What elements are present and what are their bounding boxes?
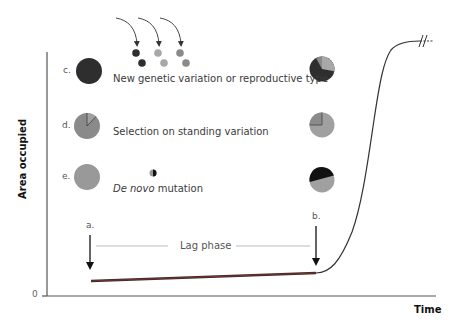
- pie-e-initial: [74, 164, 100, 190]
- pie-d-initial: [74, 113, 100, 139]
- mutant-half-dot: [150, 170, 157, 177]
- marker-a-label: a.: [86, 221, 94, 230]
- mechanism-e-italic: De novo: [113, 183, 155, 194]
- x-axis-label: Time: [414, 305, 441, 315]
- pie-d-final: [310, 113, 335, 138]
- genotype-dots: [132, 49, 190, 67]
- axis-break-icon: [419, 35, 434, 47]
- lag-phase-diagram: Area occupied 0 Time c. New genetic vari…: [0, 0, 452, 329]
- mechanism-e-text: De novo mutation: [113, 184, 203, 194]
- y-axis: [42, 52, 47, 296]
- lag-curve-tint: [91, 273, 316, 281]
- diagram-canvas: [0, 0, 452, 329]
- y-axis-zero: 0: [32, 290, 38, 299]
- mechanism-d-letter: d.: [62, 121, 71, 130]
- mechanism-c-letter: c.: [63, 66, 71, 75]
- marker-b-label: b.: [312, 212, 321, 221]
- pie-e-final: [309, 167, 334, 193]
- incoming-arrows: [116, 18, 181, 44]
- mechanism-d-text: Selection on standing variation: [113, 127, 269, 137]
- y-axis-label: Area occupied: [18, 119, 28, 199]
- pie-c-initial: [76, 58, 102, 84]
- mechanism-c-text: New genetic variation or reproductive ty…: [113, 74, 328, 84]
- lag-phase-label: Lag phase: [180, 241, 231, 251]
- mechanism-e-rest: mutation: [155, 183, 203, 194]
- mechanism-e-letter: e.: [62, 172, 70, 181]
